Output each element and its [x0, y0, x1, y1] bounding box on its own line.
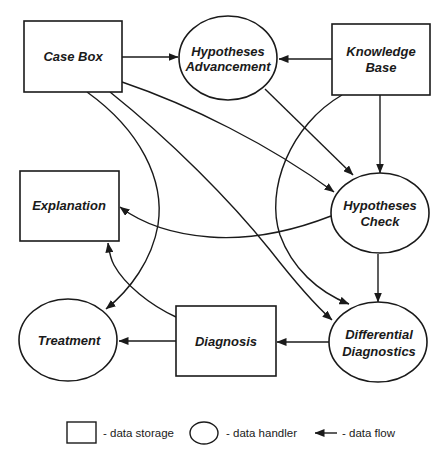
- legend-rectangle-icon: [67, 422, 96, 443]
- node-label-line-1: Hypotheses: [343, 198, 417, 213]
- node-case-box: Case Box: [24, 21, 122, 92]
- node-label-line-2: Advancement: [184, 59, 271, 74]
- svg-text:Hypotheses: Hypotheses: [191, 44, 265, 59]
- svg-text:Base: Base: [365, 60, 396, 75]
- svg-text:- data storage: - data storage: [103, 427, 174, 439]
- node-label-line-1: Knowledge: [346, 44, 415, 59]
- node-label-line-2: Base: [365, 60, 396, 75]
- svg-text:Hypotheses: Hypotheses: [343, 198, 417, 213]
- svg-text:Knowledge: Knowledge: [346, 44, 415, 59]
- node-label: Case Box: [43, 49, 103, 64]
- node-diagnosis: Diagnosis: [176, 306, 276, 376]
- node-hypotheses-advancement: Hypotheses Advancement: [179, 16, 277, 100]
- data-handler-shape: [329, 302, 427, 382]
- node-label: Diagnosis: [195, 334, 257, 349]
- svg-text:Differential: Differential: [345, 327, 413, 342]
- svg-text:Case Box: Case Box: [43, 49, 103, 64]
- node-knowledge-base: Knowledge Base: [332, 24, 430, 95]
- svg-text:- data flow: - data flow: [342, 427, 396, 439]
- edge-diagnosis-to-explanation: [108, 243, 176, 317]
- node-label: Explanation: [32, 198, 106, 213]
- svg-text:Diagnosis: Diagnosis: [195, 334, 257, 349]
- svg-text:Advancement: Advancement: [184, 59, 271, 74]
- diagram-canvas: Case Box Hypotheses Advancement Knowledg…: [0, 0, 447, 465]
- legend: - data storage - data handler - data flo…: [67, 422, 396, 444]
- svg-text:Diagnostics: Diagnostics: [342, 344, 416, 359]
- node-label: Treatment: [38, 333, 101, 348]
- node-label-line-1: Differential: [345, 327, 413, 342]
- legend-item-flow: - data flow: [315, 427, 396, 439]
- legend-ellipse-icon: [190, 422, 218, 444]
- legend-item-storage: - data storage: [67, 422, 174, 443]
- edge-hypadv-to-hypcheck: [265, 89, 353, 175]
- node-explanation: Explanation: [20, 171, 119, 241]
- edge-casebox-to-diffdiag: [110, 92, 332, 320]
- node-label-line-1: Hypotheses: [191, 44, 265, 59]
- node-label-line-2: Diagnostics: [342, 344, 416, 359]
- edge-hypcheck-to-explanation: [120, 207, 331, 238]
- legend-item-handler: - data handler: [190, 422, 297, 444]
- node-hypotheses-check: Hypotheses Check: [331, 173, 429, 253]
- legend-handler-label: - data handler: [226, 427, 297, 439]
- node-differential-diagnostics: Differential Diagnostics: [329, 302, 427, 382]
- data-handler-shape: [331, 173, 429, 253]
- legend-flow-label: - data flow: [342, 427, 396, 439]
- node-treatment: Treatment: [19, 299, 117, 381]
- svg-text:- data handler: - data handler: [226, 427, 297, 439]
- svg-text:Explanation: Explanation: [32, 198, 106, 213]
- svg-text:Treatment: Treatment: [38, 333, 101, 348]
- legend-storage-label: - data storage: [103, 427, 174, 439]
- node-label-line-2: Check: [360, 214, 400, 229]
- svg-text:Check: Check: [360, 214, 400, 229]
